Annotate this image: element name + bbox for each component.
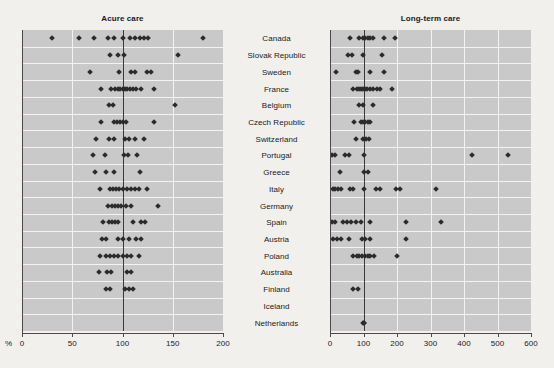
- data-point: [367, 219, 373, 225]
- x-gridline: [72, 30, 73, 331]
- x-gridline: [431, 30, 432, 331]
- data-point: [116, 219, 122, 225]
- data-point: [108, 52, 114, 58]
- category-label-italy: Italy: [269, 184, 284, 193]
- axis-tick-label: 50: [68, 339, 77, 348]
- data-point: [433, 186, 439, 192]
- percent-unit-label: %: [5, 339, 12, 348]
- data-point: [151, 119, 157, 125]
- data-point: [332, 219, 338, 225]
- data-point: [106, 36, 112, 42]
- axis-tick: [498, 333, 499, 337]
- axis-tick-label: 0: [328, 339, 332, 348]
- data-point: [381, 69, 387, 75]
- data-point: [136, 253, 142, 259]
- axis-tick: [173, 333, 174, 337]
- axis-tick-label: 200: [390, 339, 403, 348]
- data-point: [112, 169, 118, 175]
- data-point: [128, 253, 134, 259]
- panel-title-long-term-care: Long-term care: [330, 14, 531, 23]
- data-point: [371, 253, 377, 259]
- data-point: [132, 69, 138, 75]
- category-label-slovak-republic: Slovak Republic: [247, 51, 305, 60]
- data-point: [361, 186, 367, 192]
- category-label-belgium: Belgium: [262, 101, 291, 110]
- data-point: [138, 86, 144, 92]
- data-point: [125, 153, 131, 159]
- category-label-greece: Greece: [263, 168, 290, 177]
- data-point: [91, 153, 97, 159]
- data-point: [151, 86, 157, 92]
- data-point: [351, 119, 357, 125]
- data-point: [389, 86, 395, 92]
- data-point: [101, 219, 107, 225]
- data-point: [337, 169, 343, 175]
- axis-tick: [364, 333, 365, 337]
- data-point: [117, 69, 123, 75]
- category-label-czech-republic: Czech Republic: [248, 117, 305, 126]
- x-gridline: [498, 30, 499, 331]
- data-point: [367, 119, 373, 125]
- data-point: [141, 136, 147, 142]
- data-point: [333, 69, 339, 75]
- data-point: [404, 219, 410, 225]
- figure-root: Acure care Long-term care 050100150200 0…: [0, 0, 554, 368]
- data-point: [367, 236, 373, 242]
- axis-tick-label: 100: [116, 339, 129, 348]
- data-point: [132, 36, 138, 42]
- data-point: [381, 36, 387, 42]
- data-point: [138, 236, 144, 242]
- data-point: [134, 153, 140, 159]
- data-point: [94, 136, 100, 142]
- data-point: [130, 286, 136, 292]
- category-label-switzerland: Switzerland: [256, 134, 298, 143]
- axis-tick: [330, 333, 331, 337]
- data-point: [99, 86, 105, 92]
- data-point: [92, 36, 98, 42]
- data-point: [108, 286, 114, 292]
- data-point: [111, 102, 117, 108]
- data-point: [367, 69, 373, 75]
- data-point: [137, 169, 143, 175]
- axis-tick: [123, 333, 124, 337]
- category-label-france: France: [264, 84, 289, 93]
- data-point: [355, 69, 361, 75]
- category-label-sweden: Sweden: [262, 67, 291, 76]
- axis-tick-label: 500: [491, 339, 504, 348]
- data-point: [338, 236, 344, 242]
- axis-tick: [223, 333, 224, 337]
- data-point: [356, 286, 362, 292]
- axis-tick: [464, 333, 465, 337]
- category-label-germany: Germany: [260, 201, 293, 210]
- data-point: [470, 153, 476, 159]
- data-point: [332, 153, 338, 159]
- axis-tick: [531, 333, 532, 337]
- data-point: [120, 236, 126, 242]
- x-gridline: [173, 30, 174, 331]
- category-label-iceland: Iceland: [263, 301, 289, 310]
- data-point: [130, 219, 136, 225]
- data-point: [347, 36, 353, 42]
- data-point: [49, 36, 55, 42]
- data-point: [349, 52, 355, 58]
- panel-title-acute-care: Acure care: [22, 14, 223, 23]
- data-point: [394, 253, 400, 259]
- data-point: [346, 153, 352, 159]
- data-point: [377, 186, 383, 192]
- data-point: [155, 203, 161, 209]
- data-point: [144, 186, 150, 192]
- data-point: [360, 102, 366, 108]
- x-gridline: [464, 30, 465, 331]
- data-point: [351, 186, 357, 192]
- data-point: [361, 320, 367, 326]
- category-label-austria: Austria: [264, 235, 289, 244]
- category-label-portugal: Portugal: [261, 151, 291, 160]
- data-point: [132, 136, 138, 142]
- data-point: [136, 186, 142, 192]
- data-point: [404, 236, 410, 242]
- data-point: [112, 36, 118, 42]
- data-point: [87, 69, 93, 75]
- category-label-spain: Spain: [266, 218, 287, 227]
- x-gridline: [397, 30, 398, 331]
- data-point: [175, 52, 181, 58]
